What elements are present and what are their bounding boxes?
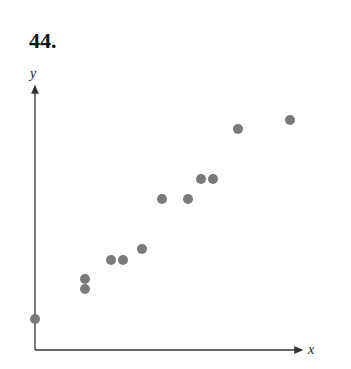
y-axis-label: y	[28, 66, 37, 81]
data-point	[196, 174, 206, 184]
data-point	[30, 314, 40, 324]
data-point	[106, 255, 116, 265]
data-point	[137, 244, 147, 254]
data-point	[157, 194, 167, 204]
data-point	[183, 194, 193, 204]
data-point	[285, 115, 295, 125]
x-axis-label: x	[307, 342, 315, 357]
data-point	[208, 174, 218, 184]
data-point	[233, 124, 243, 134]
data-point	[118, 255, 128, 265]
data-point	[80, 274, 90, 284]
data-points	[30, 115, 295, 324]
data-point	[80, 284, 90, 294]
scatter-plot: y x	[0, 0, 351, 369]
